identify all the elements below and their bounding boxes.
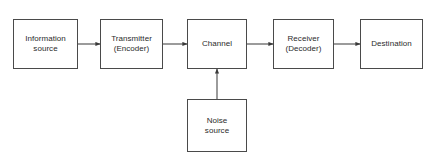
node-label-channel: Channel: [202, 39, 232, 49]
node-noise-source[interactable]: Noise source: [187, 99, 247, 152]
node-destination[interactable]: Destination: [360, 19, 423, 69]
node-label-transmitter: Transmitter (Encoder): [111, 34, 152, 54]
node-receiver[interactable]: Receiver (Decoder): [273, 19, 334, 69]
diagram-canvas: Information sourceTransmitter (Encoder)C…: [0, 0, 436, 166]
node-label-destination: Destination: [371, 39, 412, 49]
node-channel[interactable]: Channel: [187, 19, 247, 69]
node-transmitter[interactable]: Transmitter (Encoder): [100, 19, 163, 69]
node-label-information-source: Information source: [25, 34, 66, 54]
node-information-source[interactable]: Information source: [13, 19, 78, 69]
node-label-noise-source: Noise source: [205, 116, 229, 136]
node-label-receiver: Receiver (Decoder): [285, 34, 321, 54]
